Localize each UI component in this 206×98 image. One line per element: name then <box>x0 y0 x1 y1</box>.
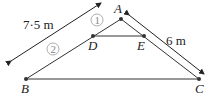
label-c: C <box>195 81 204 96</box>
label-b: B <box>21 81 29 96</box>
label-a: A <box>113 1 122 16</box>
circled-one-number: 1 <box>95 14 101 26</box>
measure-label-right: 6 m <box>166 33 186 48</box>
label-d: D <box>87 38 98 53</box>
segment-ac <box>121 19 199 79</box>
label-e: E <box>136 38 145 53</box>
circled-two-number: 2 <box>51 43 57 55</box>
geometry-diagram: A D E B C 7·5 m 6 m 1 2 <box>0 0 206 98</box>
point-a <box>119 17 123 21</box>
measure-label-left: 7·5 m <box>23 17 54 32</box>
